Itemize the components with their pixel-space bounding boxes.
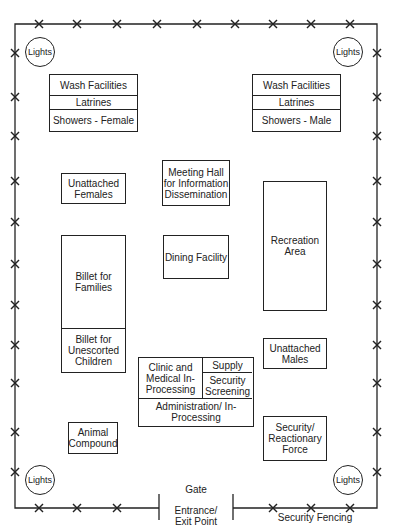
lights-top-right: Lights — [333, 37, 363, 67]
lights-top-left: Lights — [25, 37, 55, 67]
lights-bottom-right: Lights — [333, 465, 363, 495]
billet-block: Billet for Families Billet for Unescorte… — [61, 235, 126, 373]
security-reactionary-force: Security/ Reactionary Force — [263, 416, 327, 461]
processing-complex: Clinic and Medical In-Processing Supply … — [138, 357, 254, 427]
entrance-exit-label: Entrance/ Exit Point — [166, 505, 226, 527]
animal-compound: Animal Compound — [68, 422, 118, 454]
billet-for-unescorted-children: Billet for Unescorted Children — [62, 329, 125, 371]
clinic: Clinic and Medical In-Processing — [139, 358, 203, 399]
meeting-hall: Meeting Hall for Information Disseminati… — [162, 160, 230, 206]
recreation-area: Recreation Area — [263, 181, 327, 311]
unattached-males: Unattached Males — [263, 338, 327, 369]
administration: Administration/ In-Processing — [139, 399, 253, 425]
wash-facilities-female: Wash Facilities Latrines Showers - Femal… — [49, 74, 138, 132]
wash-facilities-male: Wash Facilities Latrines Showers - Male — [252, 74, 341, 132]
security-screening: Security Screening — [203, 373, 252, 399]
supply: Supply — [203, 358, 252, 373]
gate-label: Gate — [176, 484, 216, 495]
billet-for-families: Billet for Families — [62, 236, 125, 329]
lights-bottom-left: Lights — [25, 465, 55, 495]
security-fencing-label: Security Fencing — [265, 512, 365, 523]
dining-facility: Dining Facility — [163, 235, 229, 279]
unattached-females: Unattached Females — [61, 173, 126, 204]
